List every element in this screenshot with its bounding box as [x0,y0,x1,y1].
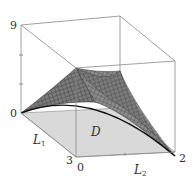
z-tick-0: 0 [10,108,17,119]
l2-axis-label: L2 [134,164,146,178]
l2-axis-subscript: 2 [142,170,146,178]
l1-tick-3: 3 [66,155,73,166]
surface-plot [0,0,192,181]
l1-axis-name: L [33,133,41,147]
z-tick-9: 9 [10,20,17,31]
l1-axis-label: L1 [33,134,45,148]
l2-tick-2: 2 [179,153,186,164]
l1-axis-subscript: 1 [41,140,45,148]
l2-axis-name: L [134,163,142,177]
l2-tick-0: 0 [77,162,84,173]
region-d-label: D [91,126,101,138]
